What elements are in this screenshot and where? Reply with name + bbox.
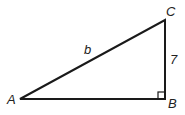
triangle-diagram: A B C b 7	[0, 0, 185, 115]
triangle-abc	[20, 20, 165, 99]
vertex-label-a: A	[6, 92, 16, 107]
vertex-label-c: C	[166, 4, 176, 19]
side-label-bc: 7	[170, 52, 178, 67]
right-angle-marker	[158, 92, 165, 99]
side-label-b: b	[84, 42, 91, 57]
vertex-label-b: B	[168, 96, 177, 111]
